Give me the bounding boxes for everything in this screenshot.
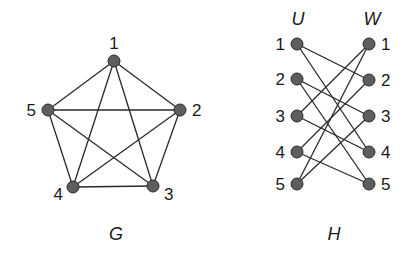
vertex-label-u4: 4 <box>276 143 285 162</box>
vertex-w1 <box>363 38 375 50</box>
vertex-u2 <box>291 73 303 85</box>
edge-u3-w4 <box>297 116 369 152</box>
edge-u2-w3 <box>297 79 369 116</box>
vertex-u3 <box>291 110 303 122</box>
vertex-label-5: 5 <box>27 101 36 120</box>
edge-u3-w1 <box>297 44 369 116</box>
graph-h-edges <box>297 44 369 184</box>
vertex-label-u5: 5 <box>276 175 285 194</box>
vertex-w5 <box>363 178 375 190</box>
vertex-1 <box>108 55 120 67</box>
graph-h-caption: H <box>328 224 342 244</box>
edge-1-4 <box>73 61 114 187</box>
edge-1-2 <box>114 61 180 110</box>
edge-u4-w2 <box>297 80 369 152</box>
vertex-w4 <box>363 146 375 158</box>
vertex-label-1: 1 <box>109 34 118 53</box>
vertex-5 <box>42 104 54 116</box>
vertex-2 <box>174 104 186 116</box>
graph-g-caption: G <box>109 224 123 244</box>
edge-u1-w2 <box>297 44 369 80</box>
edge-2-3 <box>153 110 180 186</box>
edge-1-3 <box>114 61 153 186</box>
edge-u5-w1 <box>297 44 369 184</box>
edge-1-5 <box>48 61 114 110</box>
edge-3-5 <box>48 110 153 186</box>
vertex-label-2: 2 <box>192 101 201 120</box>
vertex-label-u3: 3 <box>276 107 285 126</box>
vertex-u1 <box>291 38 303 50</box>
vertex-label-w1: 1 <box>381 35 390 54</box>
edge-3-4 <box>73 186 153 187</box>
vertex-3 <box>147 180 159 192</box>
vertex-label-w5: 5 <box>381 175 390 194</box>
vertex-label-w2: 2 <box>381 71 390 90</box>
graph-diagram: 12345 G 1234512345 U W H <box>0 0 418 256</box>
vertex-w2 <box>363 74 375 86</box>
vertex-label-u1: 1 <box>276 35 285 54</box>
graph-g-edges <box>48 61 180 187</box>
vertex-label-u2: 2 <box>276 70 285 89</box>
vertex-label-w3: 3 <box>381 107 390 126</box>
part-w-label: W <box>364 9 383 29</box>
edge-2-4 <box>73 110 180 187</box>
edge-u5-w3 <box>297 116 369 184</box>
vertex-u4 <box>291 146 303 158</box>
vertex-label-w4: 4 <box>381 143 390 162</box>
vertex-w3 <box>363 110 375 122</box>
graph-g-nodes: 12345 <box>27 34 202 204</box>
vertex-u5 <box>291 178 303 190</box>
part-u-label: U <box>292 9 306 29</box>
edge-4-5 <box>48 110 73 187</box>
vertex-label-4: 4 <box>54 185 63 204</box>
vertex-4 <box>67 181 79 193</box>
vertex-label-3: 3 <box>164 185 173 204</box>
